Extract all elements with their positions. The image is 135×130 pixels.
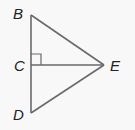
triangle-diagram: B C E D bbox=[0, 0, 135, 130]
label-d: D bbox=[13, 106, 24, 123]
label-b: B bbox=[13, 5, 23, 22]
right-angle-marker-icon bbox=[31, 54, 41, 65]
diagram-canvas: B C E D bbox=[0, 0, 135, 130]
segment-be bbox=[31, 15, 104, 65]
segment-de bbox=[31, 65, 104, 113]
label-c: C bbox=[14, 57, 25, 74]
label-e: E bbox=[110, 57, 121, 74]
